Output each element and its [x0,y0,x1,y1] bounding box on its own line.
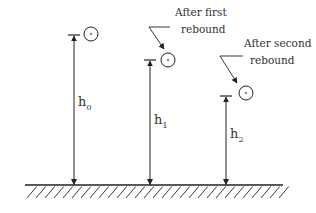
height-initial: h0 [68,27,98,185]
ball-icon [239,86,253,100]
height-second-rebound: h2After secondrebound [220,37,312,185]
annotation-second-rebound: After secondrebound [220,37,312,83]
ground-hatching [27,187,289,199]
height-label: h2 [230,126,243,144]
annotation-line-1: After first [174,6,227,18]
height-label: h0 [78,94,91,112]
annotation-line-2: rebound [181,23,226,35]
leader-arrow [149,27,170,49]
height-label: h1 [154,112,167,130]
ground-surface [25,185,289,198]
height-measurements: h0h1After firstreboundh2After secondrebo… [68,6,312,185]
annotation-line-2: rebound [250,54,295,66]
annotation-first-rebound: After firstrebound [149,6,227,49]
rebound-diagram: h0h1After firstreboundh2After secondrebo… [0,0,316,213]
ball-icon [84,27,98,41]
annotation-line-1: After second [243,37,312,49]
ball-icon [161,53,175,67]
height-first-rebound: h1After firstrebound [144,6,227,185]
leader-arrow [220,56,243,83]
